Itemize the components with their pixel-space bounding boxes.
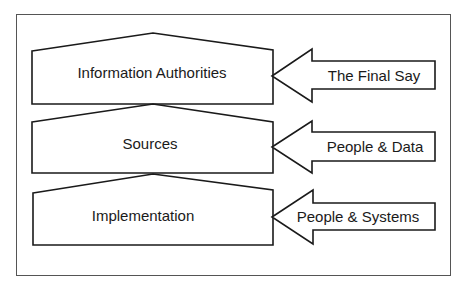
layer-diagram: Information Authorities The Final Say So… [0,0,464,289]
arrow-label: People & Systems [297,208,420,225]
layer-label: Sources [122,135,177,152]
arrow-label: People & Data [327,138,424,155]
layer-label: Implementation [92,207,195,224]
arrow-label: The Final Say [328,67,421,84]
layer-label: Information Authorities [77,64,226,81]
